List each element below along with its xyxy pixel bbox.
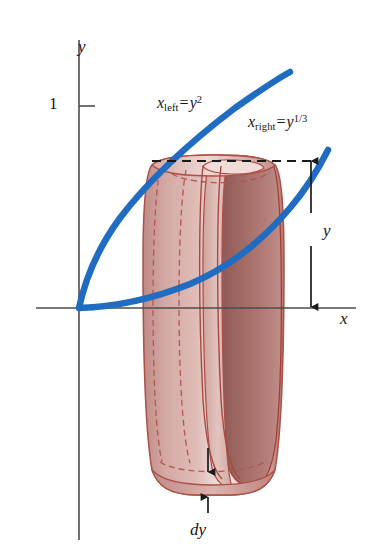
curve-label-x-left-base: y: [190, 94, 197, 111]
curve-label-x-right-subscript: right: [255, 121, 275, 132]
curve-label-x-left-subscript: left: [164, 102, 178, 113]
y-axis-tick-label: 1: [49, 95, 58, 112]
solid-inner-wall: [220, 157, 281, 486]
figure-root: xleft=y2 xright=y1/3 y x 1 y dy: [0, 0, 369, 558]
solid-of-revolution: [143, 155, 284, 495]
thickness-dimension-label-d: d: [190, 520, 199, 539]
curve-label-x-left: xleft=y2: [157, 95, 202, 114]
curve-label-x-left-equals: =: [179, 94, 190, 111]
thickness-dimension-label-y: y: [199, 520, 207, 539]
curve-label-x-right: xright=y1/3: [248, 114, 307, 133]
x-axis-label-text: x: [340, 309, 348, 328]
height-dimension-label-text: y: [323, 221, 331, 240]
thickness-dimension-label: dy: [190, 521, 206, 538]
curve-label-x-right-equals: =: [276, 113, 287, 130]
curve-label-x-left-exponent: 2: [197, 94, 202, 105]
figure-canvas: [0, 0, 369, 558]
height-dimension-label: y: [323, 222, 331, 239]
y-axis-label: y: [78, 38, 86, 55]
curve-label-x-right-exponent: 1/3: [294, 113, 307, 124]
x-axis-label: x: [340, 310, 348, 327]
curve-label-x-right-base: y: [287, 113, 294, 130]
y-axis-label-text: y: [78, 37, 86, 56]
